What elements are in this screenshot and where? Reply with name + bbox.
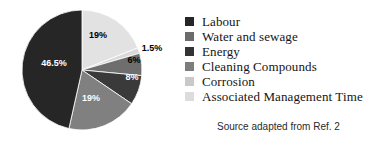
pie-chart-figure: 19%1.5%6%8%19%46.5% Labour Water and sew…: [0, 0, 371, 150]
legend-item-energy[interactable]: Energy: [185, 44, 371, 59]
legend-item-corrosion[interactable]: Corrosion: [185, 74, 371, 89]
legend-item-labour[interactable]: Labour: [185, 14, 371, 29]
pie-chart-svg: 19%1.5%6%8%19%46.5%: [0, 0, 180, 150]
legend-item-label: Corrosion: [202, 75, 255, 88]
pie-slice-value-label: 19%: [82, 93, 100, 103]
pie-slice-value-label: 8%: [125, 72, 138, 82]
legend-swatch-icon: [185, 92, 194, 101]
legend-item-associated-management-time[interactable]: Associated Management Time: [185, 89, 371, 104]
legend-swatch-icon: [185, 17, 194, 26]
pie-slice[interactable]: [22, 10, 82, 129]
legend-swatch-icon: [185, 32, 194, 41]
pie-slice-value-label: 6%: [127, 55, 140, 65]
legend-item-cleaning-compounds[interactable]: Cleaning Compounds: [185, 59, 371, 74]
legend-swatch-icon: [185, 62, 194, 71]
legend-item-water-and-sewage[interactable]: Water and sewage: [185, 29, 371, 44]
legend-swatch-icon: [185, 77, 194, 86]
legend-item-label: Energy: [202, 45, 240, 58]
pie-slice-value-label: 46.5%: [41, 58, 67, 68]
legend-item-label: Labour: [202, 15, 240, 28]
pie-chart-area: 19%1.5%6%8%19%46.5%: [0, 0, 180, 150]
pie-slice-value-label: 19%: [89, 30, 107, 40]
pie-slice-value-label: 1.5%: [142, 43, 163, 53]
legend-swatch-icon: [185, 47, 194, 56]
legend-item-label: Associated Management Time: [202, 90, 363, 103]
pie-slices-group: [22, 10, 142, 130]
chart-legend: Labour Water and sewage Energy Cleaning …: [185, 14, 371, 104]
source-attribution: Source adapted from Ref. 2: [217, 121, 340, 132]
legend-item-label: Cleaning Compounds: [202, 60, 317, 73]
legend-item-label: Water and sewage: [202, 30, 298, 43]
